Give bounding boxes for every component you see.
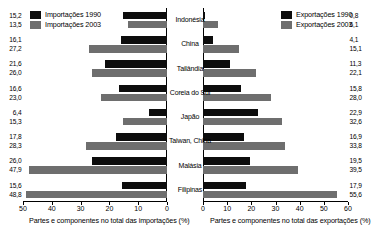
bar-value-label: 19,5 xyxy=(350,157,362,165)
bar-value-label: 4,1 xyxy=(350,36,359,44)
bar-row: 6,4 xyxy=(23,109,167,117)
x-tick-mark xyxy=(227,202,228,205)
bar-row: 26,0 xyxy=(23,157,167,165)
bar-row: 4,1 xyxy=(203,36,348,44)
legend-label: Importações 1990 xyxy=(45,11,101,19)
category-label: Coreia do Sul xyxy=(167,81,213,105)
x-tick-mark xyxy=(276,202,277,205)
bar-value-label: 55,6 xyxy=(350,191,362,199)
legend-label: Exportações 1990 xyxy=(296,11,352,19)
bar-row: 26,0 xyxy=(23,69,167,77)
bar-row: 32,6 xyxy=(203,118,348,126)
bar-row: 22,9 xyxy=(203,109,348,117)
bar: 28,0 xyxy=(203,94,271,102)
bar-value-label: 21,6 xyxy=(9,60,21,68)
panel-imports: Importações 1990 Importações 2003 15,213… xyxy=(0,0,190,244)
x-tick-mark xyxy=(52,202,53,205)
bar-value-label: 17,9 xyxy=(350,182,362,190)
bar-row: 15,1 xyxy=(203,45,348,53)
category-label: Malásia xyxy=(167,154,213,178)
bar-value-label: 16,9 xyxy=(350,133,362,141)
bar-value-label: 28,0 xyxy=(350,94,362,102)
bar: 6,4 xyxy=(149,109,167,117)
bar-row: 27,2 xyxy=(23,45,167,53)
bar-value-label: 27,2 xyxy=(9,45,21,53)
panel-exports: Exportações 1990 Exportações 2003 0,86,1… xyxy=(190,0,380,244)
bar-value-label: 13,5 xyxy=(9,21,21,29)
legend-imports: Importações 1990 Importações 2003 xyxy=(30,10,101,29)
category-label: Filipinas xyxy=(167,178,213,202)
x-tick-mark xyxy=(348,202,349,205)
bar-value-label: 16,1 xyxy=(9,36,21,44)
bar-group: 6,415,3 xyxy=(23,105,167,129)
x-tick-label: 50 xyxy=(320,204,328,213)
bar: 15,2 xyxy=(123,12,167,20)
plot-area-imports: 15,213,516,127,221,626,016,623,06,415,31… xyxy=(23,8,167,202)
bar-value-label: 15,2 xyxy=(9,12,21,20)
bar-value-label: 15,1 xyxy=(350,45,362,53)
legend-exports: Exportações 1990 Exportações 2003 xyxy=(281,10,352,29)
bar-group: 19,539,5 xyxy=(203,154,348,178)
legend-label: Exportações 2003 xyxy=(296,21,352,29)
bar: 16,1 xyxy=(121,36,167,44)
x-axis-caption-exports: Partes e componentes no total das export… xyxy=(210,216,371,226)
x-tick-labels-imports: 50403020100 xyxy=(23,204,167,214)
x-tick-mark xyxy=(81,202,82,205)
legend-swatch-icon xyxy=(30,11,41,19)
bar: 55,6 xyxy=(203,191,337,199)
bar-value-label: 48,8 xyxy=(9,191,21,199)
bar-value-label: 22,1 xyxy=(350,69,362,77)
bar-group: 26,047,9 xyxy=(23,154,167,178)
category-label: Tailândia xyxy=(167,57,213,81)
bar-group: 22,932,6 xyxy=(203,105,348,129)
bar: 21,6 xyxy=(105,60,167,68)
bar-group: 16,623,0 xyxy=(23,81,167,105)
bar-value-label: 23,0 xyxy=(9,94,21,102)
legend-label: Importações 2003 xyxy=(45,21,101,29)
bar-value-label: 15,6 xyxy=(9,182,21,190)
x-tick-label: 60 xyxy=(344,204,352,213)
legend-item: Importações 2003 xyxy=(30,20,101,29)
bar: 28,3 xyxy=(86,142,168,150)
bar-group: 4,115,1 xyxy=(203,32,348,56)
bar: 32,6 xyxy=(203,118,282,126)
x-tick-label: 30 xyxy=(77,204,85,213)
bar-row: 55,6 xyxy=(203,191,348,199)
x-tick-label: 10 xyxy=(223,204,231,213)
bar: 26,0 xyxy=(92,69,167,77)
legend-item: Exportações 2003 xyxy=(281,20,352,29)
bar-row: 16,6 xyxy=(23,85,167,93)
bar: 33,8 xyxy=(203,142,285,150)
x-tick-label: 20 xyxy=(105,204,113,213)
bar: 15,6 xyxy=(122,182,167,190)
x-tick-label: 40 xyxy=(48,204,56,213)
bar: 27,2 xyxy=(89,45,167,53)
x-tick-label: 40 xyxy=(296,204,304,213)
bar-row: 47,9 xyxy=(23,166,167,174)
bar-row: 28,3 xyxy=(23,142,167,150)
bar: 15,3 xyxy=(123,118,167,126)
category-labels: IndonésiaChinaTailândiaCoreia do SulJapã… xyxy=(167,8,213,202)
bar-value-label: 26,0 xyxy=(9,69,21,77)
bar-row: 11,3 xyxy=(203,60,348,68)
bar-value-label: 11,3 xyxy=(350,60,362,68)
bar-group: 15,648,8 xyxy=(23,178,167,202)
x-axis-caption-imports: Partes e componentes no total das import… xyxy=(29,216,190,226)
x-tick-label: 10 xyxy=(134,204,142,213)
x-tick-label: 0 xyxy=(201,204,205,213)
bar-row: 48,8 xyxy=(23,191,167,199)
x-tick-label: 50 xyxy=(19,204,27,213)
bar-group: 11,322,1 xyxy=(203,57,348,81)
legend-swatch-icon xyxy=(281,21,292,29)
legend-swatch-icon xyxy=(281,11,292,19)
bar-row: 33,8 xyxy=(203,142,348,150)
bar-value-label: 26,0 xyxy=(9,157,21,165)
figure-root: Importações 1990 Importações 2003 15,213… xyxy=(0,0,380,244)
bar-row: 15,6 xyxy=(23,182,167,190)
bar: 13,5 xyxy=(128,21,167,29)
bar-value-label: 6,4 xyxy=(13,109,22,117)
bar-group: 17,828,3 xyxy=(23,129,167,153)
bar: 23,0 xyxy=(101,94,167,102)
bar-row: 16,9 xyxy=(203,133,348,141)
bar-value-label: 15,3 xyxy=(9,118,21,126)
